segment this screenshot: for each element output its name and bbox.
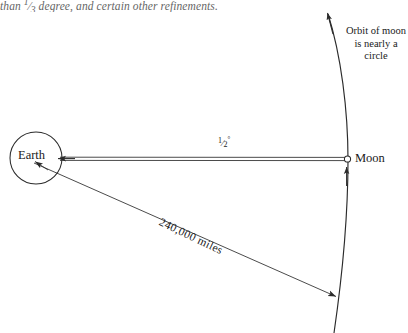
running-text-fraction: 1⁄3 (24, 0, 36, 12)
angular-size-label: 1⁄2° (218, 135, 230, 149)
orbit-note-line-3: circle (364, 50, 387, 61)
earth-label: Earth (18, 148, 45, 163)
running-text-after: degree, and certain other refinements. (36, 0, 218, 12)
running-body-text: than 1⁄3 degree, and certain other refin… (0, 0, 300, 12)
moon-label: Moon (355, 151, 385, 166)
orbit-arc-arrow-top (328, 13, 334, 34)
moon-circle (344, 156, 350, 162)
running-fraction-numerator: 1 (24, 0, 29, 7)
orbit-note-line-1: Orbit of moon (346, 25, 406, 36)
orbit-note-label: Orbit of moon is nearly a circle (344, 25, 408, 63)
orbit-note-line-2: is nearly a (354, 38, 397, 49)
running-text-before: than (0, 0, 24, 12)
degree-symbol-icon: ° (228, 135, 231, 143)
